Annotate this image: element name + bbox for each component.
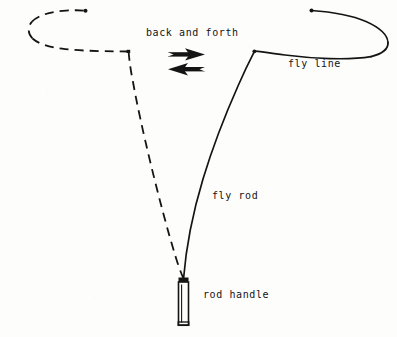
back-cast-lower-leg [33,39,129,52]
fly-line-upper-leg [312,11,389,43]
fly-casting-figure [0,0,397,337]
back-cast-bend-node [127,50,131,53]
label-fly-line: fly line [288,59,341,69]
arrow-right-icon [168,48,205,60]
label-rod-handle: rod handle [203,290,269,300]
rod-handle [178,278,189,326]
back-cast-shaft [129,52,184,280]
fly-rod [184,49,257,279]
fly-rod-curve [184,52,255,279]
back-cast-end-dot [84,9,88,13]
fly-rod-tip-node [253,49,257,53]
fly-casting-diagram-page: back and forth fly line fly rod rod hand… [0,0,397,337]
back-cast-dashed-line [29,10,184,279]
arrow-left-icon [168,63,205,75]
fly-line-end-dot [310,9,314,13]
fly-line-loop-nose [371,43,388,57]
label-fly-rod: fly rod [212,191,258,201]
back-cast-loop-nose [29,22,33,39]
label-back-and-forth: back and forth [146,28,239,38]
rod-handle-body [179,282,189,325]
fly-line-forward-loop [255,9,388,59]
back-cast-upper-leg [32,10,85,21]
